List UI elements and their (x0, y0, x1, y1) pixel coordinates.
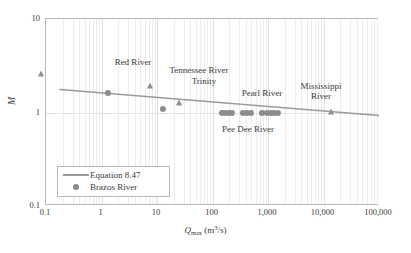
gridline-major-10000 (324, 19, 325, 204)
x-tick-label-10: 10 (152, 207, 161, 217)
gridline-minor (295, 19, 296, 204)
marker-circle-brazos (105, 90, 111, 96)
marker-circle-brazos (248, 110, 254, 116)
annotation-mississippi-line1: Mississippi (300, 81, 341, 92)
gridline-minor (371, 19, 372, 204)
gridline-minor (311, 19, 312, 204)
x-tick-label-0.1: 0.1 (40, 207, 51, 217)
marker-triangle-tennessee-river (147, 82, 153, 88)
gridline-minor (200, 19, 201, 204)
gridline-minor (285, 19, 286, 204)
chart-figure: M 10 1 0.1 0.1 1 10 100 1,000 10,000 100… (0, 0, 411, 253)
y-tick-label-10: 10 (14, 13, 40, 23)
gridline-minor (367, 19, 368, 204)
annotation-tennessee-river: Tennessee River (169, 65, 228, 76)
legend-label-equation: Equation 8.47 (90, 170, 141, 180)
x-axis-unit-open: (m (202, 225, 214, 235)
gridline-minor (307, 19, 308, 204)
y-tick-label-1: 1 (14, 107, 40, 117)
annotation-red-river: Red River (115, 57, 152, 68)
gridline-minor (210, 19, 211, 204)
marker-triangle-mississippi-river (328, 108, 334, 114)
annotation-pearl-river: Pearl River (242, 88, 283, 99)
x-axis-title-sub: max (191, 229, 202, 236)
legend-circle-marker-icon (62, 184, 90, 189)
x-tick-label-100: 100 (205, 207, 218, 217)
annotation-mississippi-line2: River (311, 91, 331, 102)
gridline-minor (256, 19, 257, 204)
gridline-minor (315, 19, 316, 204)
gridline-minor (184, 19, 185, 204)
x-axis-unit-close: /s) (218, 225, 227, 235)
x-tick-label-10000: 10,000 (311, 207, 334, 217)
legend-label-brazos: Brazos River (90, 182, 137, 192)
x-axis-title: Qmax (m3/s) (0, 224, 411, 236)
gridline-minor (340, 19, 341, 204)
x-tick-label-1000: 1,000 (257, 207, 276, 217)
marker-circle-brazos (229, 110, 235, 116)
legend-item-brazos: Brazos River (62, 181, 165, 193)
gridline-minor (377, 19, 378, 204)
annotation-trinity: Trinity (192, 76, 217, 87)
plot-area: Equation 8.47 Brazos River (45, 18, 378, 205)
legend-item-equation: Equation 8.47 (62, 169, 165, 181)
gridline-minor (204, 19, 205, 204)
x-tick-label-100000: 100,000 (364, 207, 392, 217)
gridline-major-100 (213, 19, 214, 204)
gridline-minor (362, 19, 363, 204)
marker-triangle-red-river (38, 70, 44, 76)
gridline-minor (190, 19, 191, 204)
gridline-minor (301, 19, 302, 204)
legend-line-swatch-icon (62, 174, 90, 176)
gridline-minor (318, 19, 319, 204)
gridline-minor (196, 19, 197, 204)
y-tick-label-0.1: 0.1 (14, 200, 40, 210)
annotation-pee-dee-river: Pee Dee River (222, 124, 274, 135)
marker-circle-brazos (160, 106, 166, 112)
gridline-minor (207, 19, 208, 204)
gridline-minor (350, 19, 351, 204)
gridline-minor (374, 19, 375, 204)
gridline-minor (174, 19, 175, 204)
y-axis-title: M (6, 97, 17, 105)
gridline-minor (357, 19, 358, 204)
x-tick-label-1: 1 (98, 207, 102, 217)
marker-circle-brazos (274, 110, 280, 116)
chart-legend: Equation 8.47 Brazos River (57, 166, 170, 197)
gridline-minor (321, 19, 322, 204)
marker-triangle-trinity (176, 99, 182, 105)
